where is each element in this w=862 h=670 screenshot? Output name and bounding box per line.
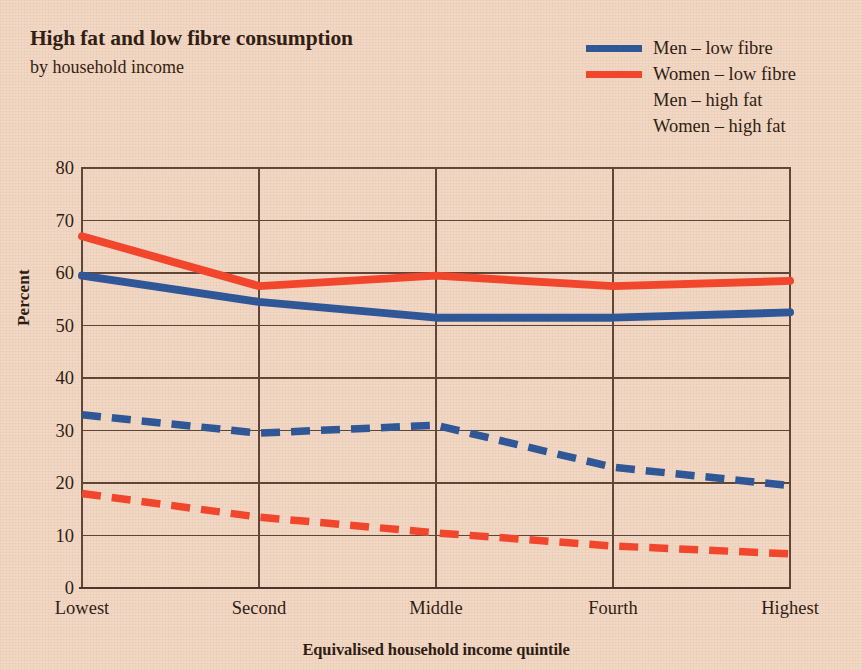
chart-figure: High fat and low fibre consumption by ho… xyxy=(0,0,862,670)
y-tick-label: 80 xyxy=(28,159,74,178)
y-tick-label: 30 xyxy=(28,422,74,441)
x-tick-label: Fourth xyxy=(588,598,637,619)
y-tick-label: 40 xyxy=(28,369,74,388)
x-axis-title: Equivalised household income quintile xyxy=(82,640,790,660)
x-tick-label: Middle xyxy=(409,598,462,619)
y-axis-ticks: 80706050403020100 xyxy=(22,0,74,670)
y-tick-label: 20 xyxy=(28,474,74,493)
plot-canvas xyxy=(0,0,862,670)
y-tick-label: 10 xyxy=(28,527,74,546)
x-tick-label: Highest xyxy=(761,598,819,619)
x-tick-label: Lowest xyxy=(55,598,109,619)
y-axis-title: Percent xyxy=(14,269,34,326)
y-tick-label: 0 xyxy=(28,579,74,598)
x-tick-label: Second xyxy=(232,598,286,619)
y-tick-label: 70 xyxy=(28,212,74,231)
y-tick-label: 60 xyxy=(28,264,74,283)
gridlines xyxy=(82,168,790,588)
y-tick-label: 50 xyxy=(28,317,74,336)
